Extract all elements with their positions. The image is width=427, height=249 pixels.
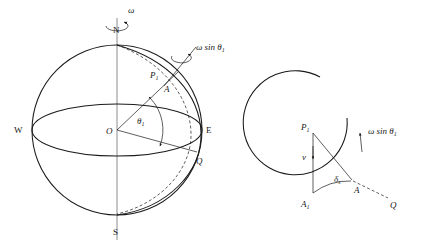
omega-label: ω [128, 5, 134, 15]
label-a1-sub-right: 1 [307, 204, 310, 210]
label-a-right: A [353, 185, 360, 195]
label-a1-right: A1 [300, 199, 310, 210]
label-q-left: Q [196, 156, 203, 166]
radius-o-to-a [117, 72, 178, 130]
label-p1-right: P1 [300, 122, 310, 133]
delta-s-arc [313, 181, 351, 193]
label-delta-s: δs [334, 174, 341, 185]
omega-sin-theta-label-left: ω sin θ1 [196, 42, 225, 53]
label-p1-sub-left: 1 [156, 75, 159, 81]
line-p1-to-a [313, 133, 352, 180]
detail-panel: ω sin θ1 P1 A1 A Q v δs [243, 71, 397, 210]
diagram-canvas: ω ω sin θ1 N S W E [0, 0, 427, 249]
radius-o-to-q [117, 130, 197, 152]
local-spin-arrow [171, 54, 191, 63]
label-theta1-sub: 1 [141, 121, 144, 127]
meridian-solid [117, 45, 201, 215]
label-north-pole: N [113, 25, 120, 35]
label-east: E [206, 125, 212, 135]
label-center-o: O [106, 126, 113, 136]
label-p1-sub-right: 1 [307, 127, 310, 133]
label-q-right: Q [390, 200, 397, 210]
detail-circle-arc [243, 71, 347, 175]
omega-sin-theta-label-right: ω sin θ1 [368, 126, 397, 137]
label-p1-left: P1 [149, 70, 159, 81]
omega-sin-theta-arrow-right [360, 133, 362, 152]
sphere-panel: ω ω sin θ1 N S W E [14, 5, 225, 240]
label-velocity-v: v [302, 152, 306, 162]
omega-sin-theta-sub-left: 1 [222, 47, 225, 53]
label-west: W [14, 125, 23, 135]
local-axis-line [164, 47, 196, 86]
omega-sin-theta-sub-right: 1 [394, 131, 397, 137]
label-delta-s-sub: s [338, 179, 341, 185]
label-south-pole: S [113, 227, 118, 237]
figure-root: ω ω sin θ1 N S W E [0, 0, 427, 249]
label-a-left: A [163, 84, 170, 94]
label-theta1: θ1 [137, 116, 144, 127]
